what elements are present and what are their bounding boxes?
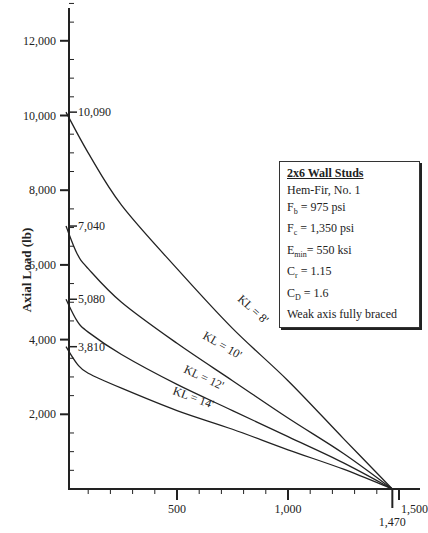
- start-value-label: 5,080: [78, 292, 105, 306]
- legend-fb: Fb = 975 psi: [287, 199, 414, 220]
- start-value-label: 3,810: [78, 340, 105, 354]
- legend-cr: Cr = 1.15: [287, 263, 414, 284]
- series-line-4: [66, 347, 392, 489]
- legend-note: Weak axis fully braced: [287, 306, 414, 323]
- x-tick-label: 500: [168, 502, 186, 516]
- y-tick-label: 8,000: [29, 183, 56, 197]
- x-special-tick-label: 1,470: [379, 515, 406, 529]
- start-value-label: 7,040: [78, 219, 105, 233]
- legend-box: 2x6 Wall Studs Hem-Fir, No. 1 Fb = 975 p…: [279, 161, 420, 328]
- y-tick-label: 12,000: [23, 34, 56, 48]
- legend-species: Hem-Fir, No. 1: [287, 182, 414, 199]
- y-axis-label: Axial Load (lb): [19, 215, 35, 325]
- x-tick-label: 1,500: [401, 502, 428, 516]
- y-tick-label: 4,000: [29, 333, 56, 347]
- series-label: KL = 8': [235, 292, 271, 327]
- y-tick-label: 2,000: [29, 407, 56, 421]
- legend-cd: CD = 1.6: [287, 285, 414, 306]
- x-tick-label: 1,000: [275, 502, 302, 516]
- series-label: KL = 14': [171, 384, 216, 412]
- y-tick-label: 10,000: [23, 109, 56, 123]
- legend-emin: Emin= 550 ksi: [287, 242, 414, 263]
- start-value-label: 10,090: [78, 105, 111, 119]
- legend-fc: Fc = 1,350 psi: [287, 220, 414, 241]
- legend-title: 2x6 Wall Studs: [287, 165, 414, 182]
